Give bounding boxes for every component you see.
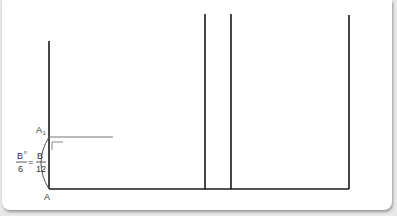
fraction-right-denominator: 12 — [36, 164, 46, 174]
arc-curve — [41, 137, 49, 189]
right-angle-mark — [52, 142, 63, 150]
label-a1: A — [36, 125, 42, 135]
fraction-left-denominator: 6 — [18, 164, 23, 174]
fraction-left-superscript: n — [24, 149, 27, 155]
equals-sign: = — [28, 157, 33, 167]
fraction-right-numerator: B — [37, 151, 43, 161]
label-a1-sub: 1 — [43, 130, 46, 136]
label-a: A — [44, 192, 50, 202]
fraction-left-numerator: B — [17, 151, 23, 161]
diagram-svg: A 1 A B n 6 = B 12 — [0, 0, 397, 216]
